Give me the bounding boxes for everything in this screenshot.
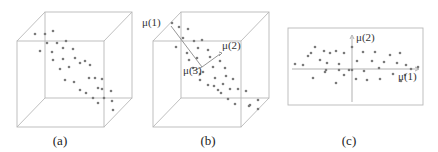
data-point: [79, 62, 82, 65]
data-point: [46, 42, 49, 45]
data-point: [94, 77, 97, 80]
data-point: [103, 97, 106, 100]
mu2-vector: [202, 54, 220, 67]
panel-a-cube: [17, 12, 132, 127]
data-point: [97, 87, 100, 90]
data-point: [188, 59, 191, 62]
data-point: [392, 73, 395, 76]
data-point: [362, 51, 365, 54]
data-point: [224, 67, 227, 70]
data-point: [85, 92, 88, 95]
panel-a-edge: [104, 98, 132, 127]
panel-a-data-points: [34, 30, 115, 112]
data-point: [232, 78, 235, 81]
data-point: [73, 81, 76, 84]
data-point: [222, 83, 225, 86]
data-point: [389, 54, 392, 57]
data-point: [34, 33, 37, 36]
data-point: [175, 46, 178, 49]
data-point: [405, 64, 408, 67]
data-point: [335, 50, 338, 53]
data-point: [97, 102, 100, 105]
data-point: [355, 78, 358, 81]
data-point: [312, 77, 315, 80]
data-point: [214, 77, 217, 80]
data-point: [338, 63, 341, 66]
data-point: [51, 51, 54, 54]
data-point: [178, 26, 181, 29]
b-mu3-label: μ(3): [183, 64, 202, 77]
data-point: [207, 84, 210, 87]
data-point: [74, 57, 77, 60]
panel-b-edge: [241, 98, 269, 127]
panel-b-cube: [153, 12, 269, 127]
data-point: [52, 59, 55, 62]
data-point: [64, 79, 67, 82]
data-point: [294, 63, 297, 66]
data-point: [237, 88, 240, 91]
c-mu1-label: μ(1): [398, 70, 417, 83]
data-point: [196, 57, 199, 60]
data-point: [326, 62, 329, 65]
panel-a-edge: [17, 98, 45, 127]
data-point: [89, 64, 92, 67]
data-point: [187, 28, 190, 31]
data-point: [62, 47, 65, 50]
data-point: [257, 99, 260, 102]
data-point: [319, 59, 322, 62]
panel-a-edge: [17, 12, 45, 41]
data-point: [65, 40, 68, 43]
data-point: [39, 50, 42, 53]
data-point: [399, 52, 402, 55]
data-point: [379, 78, 382, 81]
data-point: [343, 74, 346, 77]
data-point: [307, 55, 310, 58]
data-point: [207, 49, 210, 52]
data-point: [351, 69, 354, 72]
data-point: [72, 48, 75, 51]
b-mu2-label: μ(2): [222, 39, 241, 52]
data-point: [356, 60, 359, 63]
data-point: [101, 88, 104, 91]
data-point: [310, 52, 313, 55]
data-point: [374, 51, 377, 54]
data-point: [378, 67, 381, 70]
data-point: [62, 58, 65, 61]
data-point: [234, 103, 237, 106]
data-point: [324, 71, 327, 74]
b-mu1-label: μ(1): [142, 16, 161, 29]
data-point: [182, 37, 185, 40]
data-point: [351, 46, 354, 49]
data-point: [302, 64, 305, 67]
data-point: [229, 88, 232, 91]
data-point: [197, 47, 200, 50]
data-point: [417, 66, 420, 69]
data-point: [213, 85, 216, 88]
data-point: [366, 79, 369, 82]
data-point: [56, 42, 59, 45]
data-point: [219, 60, 222, 63]
data-point: [212, 66, 215, 69]
data-point: [186, 52, 189, 55]
panel-b-front-face: [153, 41, 241, 127]
data-point: [383, 61, 386, 64]
data-point: [209, 56, 212, 59]
data-point: [225, 75, 228, 78]
data-point: [329, 52, 332, 55]
data-point: [217, 89, 220, 92]
figure-canvas: (a) μ(1) μ(2) μ(3) (b) μ(2) μ(1) (c): [0, 0, 438, 152]
data-point: [335, 82, 338, 85]
data-point: [199, 79, 202, 82]
data-point: [68, 66, 71, 69]
data-point: [202, 71, 205, 74]
data-point: [44, 33, 47, 36]
data-point: [88, 77, 91, 80]
data-point: [343, 52, 346, 55]
data-point: [101, 78, 104, 81]
data-point: [227, 98, 230, 101]
data-point: [171, 22, 174, 25]
data-point: [79, 89, 82, 92]
data-point: [338, 69, 341, 72]
data-point: [201, 39, 204, 42]
panel-a-edge: [104, 12, 132, 41]
